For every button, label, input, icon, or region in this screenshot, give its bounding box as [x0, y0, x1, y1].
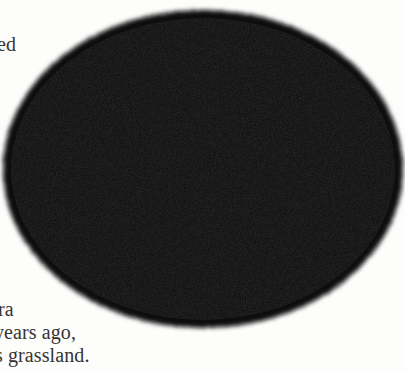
body-text-fragment-line-1: ra	[0, 298, 14, 321]
document-page: ed ra years ago, s grassland.	[0, 0, 405, 372]
body-text-fragment-line-3: s grassland.	[0, 344, 90, 367]
oval-shape-icon	[0, 0, 405, 372]
body-text-fragment-line-2: years ago,	[0, 321, 76, 344]
body-text-fragment-top: ed	[0, 33, 16, 56]
black-oval-figure	[0, 0, 405, 372]
